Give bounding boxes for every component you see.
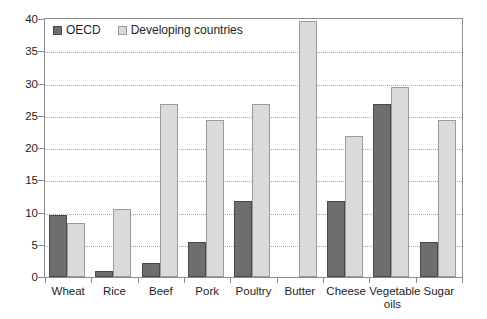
x-axis-tick-mark (230, 278, 231, 283)
x-axis-tick-mark (369, 278, 370, 283)
y-axis-tick-label: 20 (0, 142, 38, 154)
legend-label: Developing countries (131, 23, 243, 37)
legend-label: OECD (66, 23, 101, 37)
bar-developing (299, 21, 317, 277)
x-axis-tick-mark (138, 278, 139, 283)
bar-developing (438, 120, 456, 277)
x-axis-tick-label: Rice (91, 285, 137, 298)
bar-oecd (373, 104, 391, 278)
x-axis-tick-label: Butter (277, 285, 323, 298)
y-axis-tick-label: 10 (0, 207, 38, 219)
y-axis-tick-label: 15 (0, 174, 38, 186)
x-axis-tick-mark (462, 278, 463, 283)
bar-developing (391, 87, 409, 277)
chart-legend: OECDDeveloping countries (53, 23, 243, 37)
bar-developing (67, 223, 85, 277)
bar-oecd (142, 263, 160, 277)
bar-oecd (327, 201, 345, 277)
bar-group (138, 19, 184, 277)
y-axis-tick-label: 5 (0, 239, 38, 251)
bar-developing (252, 104, 270, 278)
y-axis-tick-label: 30 (0, 78, 38, 90)
x-axis-tick-mark (184, 278, 185, 283)
legend-swatch-icon (53, 26, 62, 35)
bar-developing (206, 120, 224, 277)
bars-layer (45, 19, 462, 277)
x-axis-tick-mark (91, 278, 92, 283)
bar-oecd (49, 215, 67, 277)
y-axis-tick-label: 35 (0, 45, 38, 57)
bar-group (416, 19, 462, 277)
bar-developing (160, 104, 178, 278)
x-axis-tick-label: Sugar (416, 285, 462, 298)
bar-group (277, 19, 323, 277)
bar-group (369, 19, 415, 277)
x-axis-tick-mark (45, 278, 46, 283)
y-axis-tick-label: 40 (0, 13, 38, 25)
x-axis-tick-label: Cheese (323, 285, 369, 298)
x-axis-tick-mark (323, 278, 324, 283)
x-axis-tick-label: Pork (184, 285, 230, 298)
bar-developing (345, 136, 363, 277)
y-axis-tick-label: 25 (0, 110, 38, 122)
legend-item: OECD (53, 23, 101, 37)
legend-swatch-icon (118, 26, 127, 35)
y-axis-tick-label: 0 (0, 271, 38, 283)
x-axis-tick-label: Beef (138, 285, 184, 298)
x-axis-tick-label: Poultry (230, 285, 276, 298)
bar-oecd (420, 242, 438, 277)
x-axis-tick-label: Vegetable oils (369, 285, 415, 311)
bar-oecd (95, 271, 113, 277)
bar-chart: 0510152025303540 WheatRiceBeefPorkPoultr… (0, 0, 487, 319)
bar-group (45, 19, 91, 277)
x-axis-tick-mark (416, 278, 417, 283)
bar-oecd (188, 242, 206, 277)
x-axis-tick-label: Wheat (45, 285, 91, 298)
bar-group (184, 19, 230, 277)
bar-group (323, 19, 369, 277)
x-axis-tick-mark (277, 278, 278, 283)
bar-group (230, 19, 276, 277)
bar-group (91, 19, 137, 277)
bar-oecd (234, 201, 252, 277)
bar-developing (113, 209, 131, 277)
legend-item: Developing countries (118, 23, 243, 37)
